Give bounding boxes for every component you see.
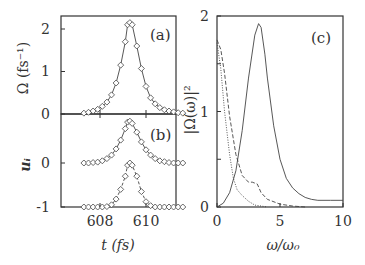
ab-xtick-610: 610 [133,213,160,229]
ab-xlabel: t (fs) [101,237,134,253]
b-ytick-m1: -1 [36,199,50,215]
diamond-marker [122,126,128,132]
figure: (a) (b) (c) 2 1 0 0 -1 608 610 t (fs) Ω … [0,0,365,265]
diamond-marker [180,160,186,166]
diamond-marker [122,173,128,179]
series-line [84,163,183,207]
panel-a-label: (a) [150,26,171,44]
a-ytick-2: 2 [41,21,50,37]
c-ytick-1: 1 [200,104,209,120]
a-ytick-0: 0 [41,106,50,122]
panel-c-plot [217,24,343,207]
c-ytick-0: 0 [200,199,209,215]
diamond-marker [134,129,140,135]
diamond-marker [180,204,186,210]
b-ytick-0: 0 [41,155,50,171]
series-line [217,43,267,207]
diamond-marker [118,137,124,143]
c-ytick-2: 2 [200,8,209,24]
a-ytick-1: 1 [41,63,50,79]
c-xtick-10: 10 [334,213,352,229]
diamond-marker [138,189,144,195]
series-line [217,40,305,207]
diamond-marker [134,43,140,49]
panel-b-label: (b) [150,126,171,144]
a-ylabel: Ω (fs⁻¹) [15,42,31,94]
diamond-marker [118,186,124,192]
diamond-marker [134,173,140,179]
series-line [217,24,343,207]
diamond-marker [118,62,124,68]
diamond-marker [138,139,144,145]
diamond-marker [143,83,149,89]
c-xtick-5: 5 [276,213,285,229]
diamond-marker [109,92,115,98]
panel-c-label: (c) [311,29,331,47]
diamond-marker [113,80,119,86]
b-ylabel: uᵢ [17,158,33,172]
c-xtick-0: 0 [213,213,222,229]
ab-xtick-608: 608 [87,213,114,229]
diamond-marker [122,39,128,45]
c-ylabel: |Ω(ω)|² [182,86,199,135]
diamond-marker [138,66,144,72]
c-xlabel: ω/ω₀ [266,237,300,253]
